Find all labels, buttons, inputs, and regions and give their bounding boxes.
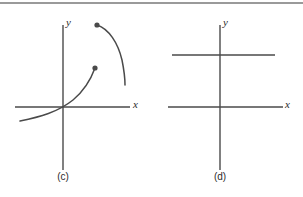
endpoint-dot-lower-c (92, 65, 97, 70)
endpoint-dot-upper-c (94, 22, 99, 27)
x-axis-label-d: x (285, 99, 290, 110)
curve-decreasing-c (97, 25, 125, 85)
graph-panel-c (0, 0, 151, 197)
graph-c-axes (15, 25, 130, 170)
panel-caption-d: (d) (200, 172, 240, 182)
graph-c-curves (20, 22, 125, 121)
x-axis-label-c: x (133, 99, 138, 110)
graph-d-axes (168, 25, 283, 170)
graph-panel-d (152, 0, 303, 197)
y-axis-label-c: y (66, 17, 71, 28)
curve-increasing-c (20, 68, 95, 121)
graph-c-svg (0, 0, 151, 197)
graph-d-svg (152, 0, 303, 197)
panel-caption-c: (c) (43, 172, 83, 182)
figure-root: y x y x (c) (d) (0, 0, 303, 197)
y-axis-label-d: y (223, 17, 228, 28)
